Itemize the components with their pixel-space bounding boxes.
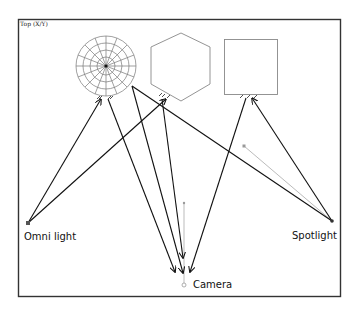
spotlight-target-line xyxy=(244,146,332,221)
ray-spot-to-sphere xyxy=(132,86,332,221)
ray-omni-to-hexagon xyxy=(28,99,166,223)
spotlight-label: Spotlight xyxy=(292,230,337,241)
omni-light-icon[interactable] xyxy=(26,221,30,225)
ray-omni-to-sphere xyxy=(28,99,101,223)
ray-box-to-camera xyxy=(190,98,246,272)
camera-target[interactable] xyxy=(183,202,185,204)
ray-spot-to-box xyxy=(252,98,332,221)
top-viewport[interactable]: Top (X/Y) Omni light Spotlight Camera xyxy=(0,0,359,309)
omni-light-label: Omni light xyxy=(24,231,76,242)
spotlight-icon[interactable] xyxy=(330,219,334,223)
sphere-object[interactable] xyxy=(76,36,136,96)
spotlight-target[interactable] xyxy=(243,145,246,148)
hexagon-object[interactable] xyxy=(151,33,210,101)
viewport-label[interactable]: Top (X/Y) xyxy=(20,20,48,27)
camera-label: Camera xyxy=(193,279,232,290)
box-object[interactable] xyxy=(225,40,278,95)
camera-icon[interactable] xyxy=(182,283,186,287)
